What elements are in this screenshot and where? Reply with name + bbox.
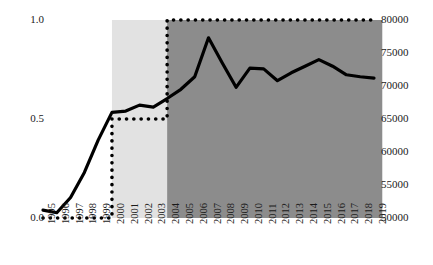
x-axis-tick-label: 2019 bbox=[378, 203, 389, 224]
x-axis-tick-label: 2015 bbox=[323, 203, 334, 224]
x-axis-tick-label: 2006 bbox=[199, 203, 210, 224]
x-axis-tick-label: 2018 bbox=[364, 203, 375, 224]
x-axis-tick-label: 1999 bbox=[102, 203, 113, 224]
x-axis-tick-label: 2005 bbox=[185, 203, 196, 224]
x-axis-tick-label: 1998 bbox=[88, 203, 99, 224]
x-axis-tick-label: 2016 bbox=[337, 203, 348, 224]
x-axis-tick-label: 2007 bbox=[213, 203, 224, 224]
x-axis-tick-label: 2017 bbox=[350, 203, 361, 224]
x-axis-tick-label: 2000 bbox=[116, 203, 127, 224]
x-axis-tick-label: 2013 bbox=[295, 203, 306, 224]
chart-figure: 0.00.51.0 500005500060000650007000075000… bbox=[0, 0, 433, 265]
right-axis-tick-label: 80000 bbox=[381, 14, 409, 25]
x-axis-tick-label: 2009 bbox=[240, 203, 251, 224]
right-axis-tick-label: 55000 bbox=[381, 179, 409, 190]
right-axis-tick-label: 60000 bbox=[381, 146, 409, 157]
x-axis-tick-label: 2014 bbox=[309, 203, 320, 224]
x-axis-tick-label: 2012 bbox=[281, 203, 292, 224]
x-axis-tick-label: 1995 bbox=[47, 203, 58, 224]
x-axis-tick-label: 2011 bbox=[268, 203, 279, 224]
left-axis-tick-label: 0.0 bbox=[30, 212, 44, 223]
left-axis-ticks: 0.00.51.0 bbox=[0, 0, 44, 265]
left-axis-tick-label: 1.0 bbox=[30, 14, 44, 25]
x-axis-tick-label: 2008 bbox=[226, 203, 237, 224]
x-axis-tick-label: 2002 bbox=[144, 203, 155, 224]
x-axis-tick-label: 2004 bbox=[171, 203, 182, 224]
right-axis-tick-label: 70000 bbox=[381, 80, 409, 91]
right-axis-ticks: 50000550006000065000700007500080000 bbox=[381, 0, 433, 265]
x-axis-tick-label: 2003 bbox=[157, 203, 168, 224]
x-axis-tick-label: 2010 bbox=[254, 203, 265, 224]
right-axis-tick-label: 75000 bbox=[381, 47, 409, 58]
right-axis-tick-label: 65000 bbox=[381, 113, 409, 124]
x-axis-tick-label: 1996 bbox=[61, 203, 72, 224]
left-axis-tick-label: 0.5 bbox=[30, 113, 44, 124]
x-axis-tick-label: 2001 bbox=[130, 203, 141, 224]
chart-plot-area bbox=[0, 0, 433, 265]
x-axis-tick-label: 1997 bbox=[75, 203, 86, 224]
dark-band bbox=[167, 20, 382, 218]
